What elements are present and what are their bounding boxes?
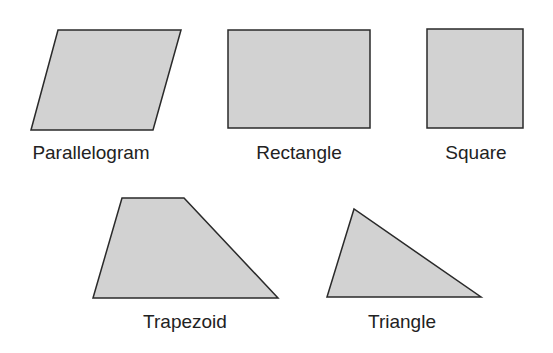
triangle-label: Triangle — [368, 312, 436, 331]
trapezoid-shape — [93, 198, 278, 298]
parallelogram-label: Parallelogram — [32, 143, 149, 162]
rectangle-label: Rectangle — [256, 143, 342, 162]
square-label: Square — [445, 143, 506, 162]
square-shape — [427, 29, 523, 128]
rectangle-shape — [228, 30, 370, 128]
triangle-shape — [327, 209, 481, 297]
shapes-diagram: Parallelogram Rectangle Square Trapezoid… — [0, 0, 553, 353]
trapezoid-label: Trapezoid — [143, 312, 227, 331]
parallelogram-shape — [31, 30, 181, 130]
shapes-canvas — [0, 0, 553, 353]
